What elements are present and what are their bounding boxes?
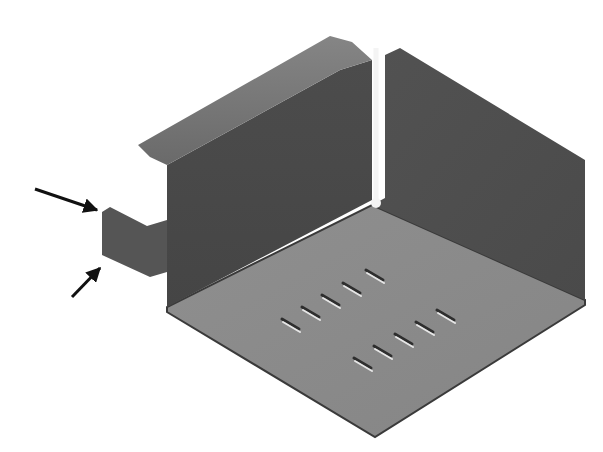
callout-arrows <box>35 189 100 297</box>
upper-arrow-icon <box>35 189 97 210</box>
sheet-metal-part <box>102 36 585 437</box>
tab-feature <box>102 207 167 277</box>
corner-relief-seam <box>371 48 381 208</box>
sheet-metal-part-diagram <box>0 0 603 452</box>
lower-arrow-icon <box>72 268 100 297</box>
figure-canvas: Sheet metal part with tab (isometric vie… <box>0 0 603 452</box>
corner-relief-hole <box>371 198 381 208</box>
